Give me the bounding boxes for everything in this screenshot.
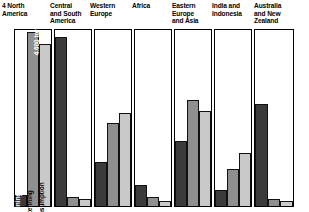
panel-title-line: Zealand (254, 17, 308, 25)
bar-consumption (239, 153, 251, 206)
bar-refining (187, 100, 199, 206)
chart-panel-3 (94, 29, 132, 207)
panel-title-line: and New (254, 10, 308, 18)
title-text: North (6, 2, 25, 9)
panel-title-line: 4 North (2, 2, 54, 10)
bar-consumption (79, 199, 91, 206)
panel-title-7: Australiaand NewZealand (254, 1, 308, 25)
bars-group (215, 30, 251, 206)
panel-title-1: 4 NorthAmerica (2, 1, 54, 17)
panel-title-line: Australia (254, 2, 308, 10)
bar-consumption (119, 113, 131, 206)
bars-group (255, 30, 293, 206)
series-label-refining: Refining (26, 190, 33, 212)
bar-mining (135, 185, 147, 206)
bar-refining (67, 197, 79, 206)
small-multiples-bar-chart: 4 NorthAmericaCentraland SouthAmericaWes… (0, 0, 309, 212)
bar-mining (95, 162, 107, 206)
bar-mining (255, 104, 268, 206)
bar-mining (175, 141, 187, 206)
panel-title-line: America (2, 10, 54, 18)
panel-title-line: Europe (90, 10, 142, 18)
chart-panel-4 (134, 29, 172, 207)
bar-consumption (159, 201, 171, 206)
bar-mining (55, 37, 67, 206)
chart-panel-7 (254, 29, 294, 207)
series-label-mining: Mining (14, 193, 21, 212)
bars-group (175, 30, 211, 206)
panel-title-line: America (50, 17, 102, 25)
bar-refining (227, 169, 239, 206)
bar-consumption: Consumption (39, 44, 51, 206)
panel-title-line: and Asia (172, 17, 224, 25)
bars-group (135, 30, 171, 206)
bars-group (95, 30, 131, 206)
bar-consumption (199, 111, 211, 206)
bar-refining: Refining4,600 tonnes (27, 32, 39, 206)
chart-panel-5 (174, 29, 212, 207)
chart-panel-6 (214, 29, 252, 207)
bar-refining (268, 199, 281, 206)
chart-panel-2 (54, 29, 92, 207)
bar-refining (147, 197, 159, 206)
chart-panel-1: MiningRefining4,600 tonnesConsumption (14, 29, 52, 207)
panels-row: MiningRefining4,600 tonnesConsumption (0, 29, 309, 207)
bars-group: MiningRefining4,600 tonnesConsumption (15, 30, 51, 206)
bar-consumption (280, 201, 293, 206)
bar-mining (215, 190, 227, 206)
series-label-consumption: Consumption (38, 182, 45, 212)
panel-titles-row: 4 NorthAmericaCentraland SouthAmericaWes… (0, 0, 309, 30)
bars-group (55, 30, 91, 206)
bar-refining (107, 123, 119, 206)
